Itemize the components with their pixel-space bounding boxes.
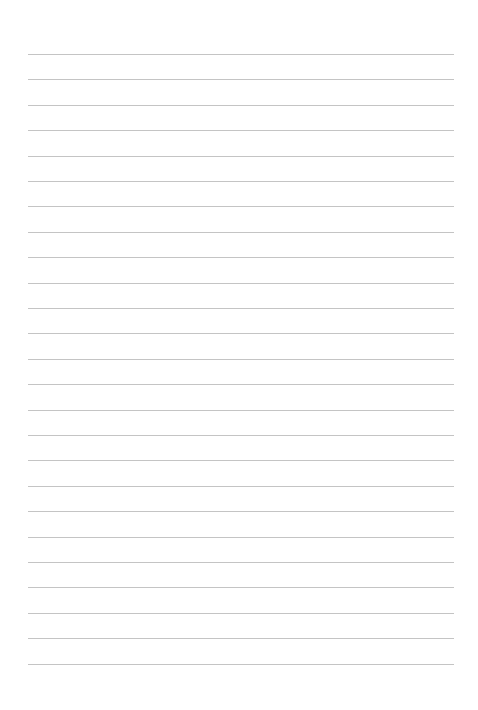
ruled-line [28,308,454,309]
ruled-line [28,105,454,106]
ruled-line [28,537,454,538]
ruled-line [28,206,454,207]
ruled-line [28,79,454,80]
ruled-line [28,460,454,461]
ruled-line [28,511,454,512]
ruled-line [28,410,454,411]
ruled-line [28,232,454,233]
ruled-line [28,359,454,360]
ruled-line [28,562,454,563]
ruled-line [28,613,454,614]
ruled-line [28,664,454,665]
ruled-line [28,181,454,182]
ruled-line [28,486,454,487]
ruled-line [28,54,454,55]
ruled-line [28,156,454,157]
lined-paper-page [0,0,478,710]
ruled-line [28,587,454,588]
ruled-line [28,435,454,436]
ruled-line [28,333,454,334]
ruled-line [28,283,454,284]
ruled-line [28,257,454,258]
ruled-line [28,638,454,639]
ruled-line [28,384,454,385]
ruled-line [28,130,454,131]
